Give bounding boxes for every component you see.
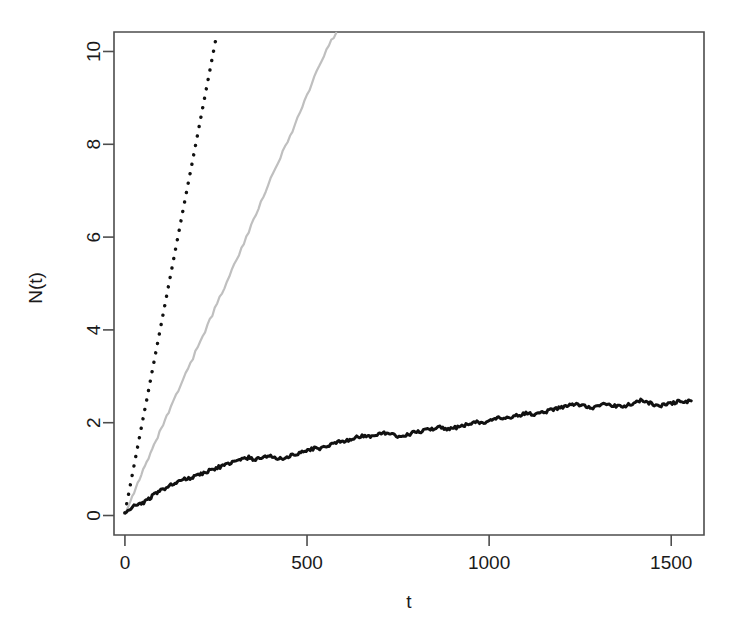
- y-axis: 0246810: [83, 41, 114, 521]
- y-tick-label: 6: [83, 232, 104, 243]
- x-tick-label: 1000: [468, 552, 510, 573]
- y-tick-label: 4: [84, 324, 105, 335]
- series-black-empirical-curve: [125, 399, 691, 513]
- y-axis-title: N(t): [25, 272, 46, 304]
- y-tick-label: 8: [84, 139, 105, 150]
- series-dotted-reference-line: [125, 33, 218, 513]
- x-tick-label: 500: [291, 552, 323, 573]
- y-tick-label: 10: [84, 41, 105, 62]
- x-tick-label: 1500: [650, 552, 692, 573]
- line-chart: 050010001500 0246810 t N(t): [0, 0, 740, 643]
- x-tick-label: 0: [120, 552, 131, 573]
- chart-figure: 050010001500 0246810 t N(t): [0, 0, 740, 643]
- data-series-layer: [125, 33, 691, 514]
- x-axis: 050010001500: [120, 535, 693, 573]
- x-axis-title: t: [406, 591, 412, 612]
- y-tick-label: 0: [84, 510, 105, 521]
- series-gray-solid-line: [125, 33, 336, 514]
- y-tick-label: 2: [84, 417, 105, 428]
